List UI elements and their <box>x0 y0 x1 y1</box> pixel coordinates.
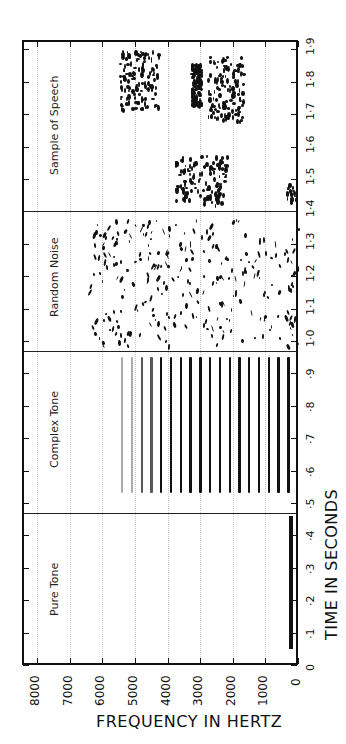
noise-mark <box>219 326 222 329</box>
time-tick <box>291 341 297 342</box>
speech-mark <box>119 63 122 65</box>
speech-mark <box>191 76 195 78</box>
speech-mark <box>240 71 242 77</box>
speech-mark <box>218 93 221 98</box>
speech-mark <box>232 91 236 95</box>
speech-mark <box>225 164 228 168</box>
noise-mark <box>119 275 124 282</box>
noise-mark <box>123 228 128 234</box>
speech-mark <box>185 165 187 167</box>
frequency-tick <box>200 658 201 664</box>
noise-mark <box>124 338 127 343</box>
noise-mark <box>244 281 246 287</box>
speech-mark <box>239 88 241 93</box>
frequency-tick-top <box>37 41 38 47</box>
speech-mark <box>185 187 188 190</box>
speech-mark <box>205 181 207 187</box>
time-tick-label: ·2 <box>304 596 317 607</box>
noise-mark <box>185 303 188 309</box>
noise-mark <box>151 231 154 234</box>
noise-mark <box>172 322 176 328</box>
speech-mark <box>193 104 197 106</box>
noise-mark <box>184 324 188 330</box>
speech-mark <box>214 62 216 65</box>
speech-mark <box>222 101 225 106</box>
time-tick <box>291 114 297 115</box>
speech-mark <box>209 60 211 64</box>
speech-mark <box>191 66 193 71</box>
speech-mark <box>219 175 221 178</box>
noise-mark <box>277 314 281 318</box>
spectrogram-plot-frame <box>22 40 298 665</box>
harmonic-line <box>238 357 240 493</box>
speech-mark <box>221 80 224 84</box>
speech-mark <box>203 201 206 207</box>
noise-mark <box>148 256 149 261</box>
harmonic-line <box>170 357 172 493</box>
speech-mark <box>209 173 212 175</box>
time-tick-left <box>23 665 29 666</box>
speech-mark <box>153 72 155 74</box>
frequency-tick <box>168 658 169 664</box>
harmonic-line <box>258 357 260 493</box>
noise-mark <box>156 334 161 341</box>
frequency-gridline <box>102 42 103 663</box>
speech-mark <box>144 97 146 100</box>
harmonic-line <box>150 357 152 493</box>
speech-mark <box>131 78 134 80</box>
noise-mark <box>93 331 97 336</box>
noise-mark <box>116 238 118 241</box>
noise-mark <box>235 290 237 297</box>
speech-mark <box>176 185 179 187</box>
speech-mark <box>228 115 230 118</box>
speech-mark <box>212 161 215 165</box>
speech-mark <box>127 94 130 99</box>
noise-mark <box>188 266 193 272</box>
speech-mark <box>194 88 197 92</box>
noise-mark <box>117 325 120 329</box>
time-tick-left <box>23 341 29 342</box>
speech-mark <box>127 79 130 84</box>
speech-mark <box>133 67 136 69</box>
time-tick-label: 1·7 <box>304 103 317 121</box>
noise-mark <box>298 228 300 231</box>
frequency-gridline <box>200 42 201 663</box>
time-tick <box>291 373 297 374</box>
noise-mark <box>115 219 118 225</box>
time-tick-left <box>23 406 29 407</box>
frequency-axis-label: FREQUENCY IN HERTZ <box>96 712 282 731</box>
speech-mark <box>120 96 123 98</box>
noise-mark <box>184 257 187 261</box>
time-tick-label: 1·8 <box>304 70 317 88</box>
noise-mark <box>106 225 111 231</box>
speech-mark <box>209 56 212 58</box>
speech-mark <box>138 83 140 87</box>
noise-mark <box>227 277 230 281</box>
noise-mark <box>242 271 244 276</box>
speech-mark <box>146 88 149 90</box>
speech-mark <box>241 91 245 96</box>
speech-mark <box>240 56 243 60</box>
pure-tone-bar <box>289 516 293 649</box>
frequency-gridline <box>265 42 266 663</box>
noise-mark <box>277 290 281 296</box>
noise-mark <box>222 330 225 333</box>
noise-mark <box>129 239 131 242</box>
panel-divider <box>24 211 296 212</box>
frequency-tick <box>265 658 266 664</box>
speech-mark <box>151 98 155 100</box>
noise-mark <box>290 260 293 264</box>
time-tick-label: ·1 <box>304 628 317 639</box>
noise-mark <box>113 255 116 258</box>
noise-mark <box>216 317 218 321</box>
speech-mark <box>232 115 234 120</box>
time-tick-left <box>23 535 29 536</box>
time-tick-left <box>23 147 29 148</box>
noise-mark <box>168 343 170 349</box>
speech-mark <box>154 105 156 108</box>
noise-mark <box>208 259 211 263</box>
frequency-tick-top <box>135 41 136 47</box>
speech-mark <box>227 88 229 92</box>
speech-mark <box>213 170 215 175</box>
speech-mark <box>199 194 202 198</box>
